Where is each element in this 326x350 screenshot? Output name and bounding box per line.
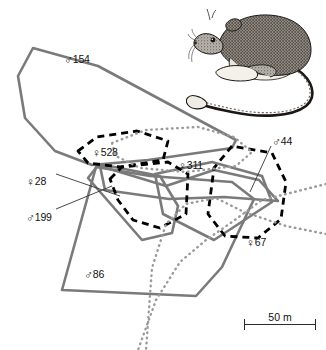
male-symbol-icon: ♂	[272, 135, 281, 149]
range-label-311: ♀311	[178, 160, 203, 172]
range-label-311-text: 311	[187, 159, 203, 171]
rodent-illustration	[186, 4, 326, 122]
range-label-154: ♂154	[64, 54, 90, 66]
range-label-86-text: 86	[93, 268, 104, 280]
female-symbol-icon: ♀	[26, 175, 35, 189]
male-symbol-icon: ♂	[64, 53, 73, 67]
range-label-44-text: 44	[281, 135, 292, 147]
scale-bar-label: 50 m	[244, 311, 316, 323]
range-label-199-text: 199	[35, 211, 52, 223]
range-label-154-text: 154	[73, 53, 90, 65]
range-label-86: ♂86	[84, 269, 104, 281]
scale-bar: 50 m	[244, 312, 316, 332]
range-label-67-text: 67	[255, 236, 266, 248]
range-label-28-text: 28	[35, 175, 46, 187]
female-symbol-icon: ♀	[246, 236, 255, 250]
female-symbol-icon: ♀	[92, 146, 101, 160]
female-symbol-icon: ♀	[178, 159, 187, 173]
male-symbol-icon: ♂	[26, 211, 35, 225]
range-label-528: ♀528	[92, 147, 118, 159]
range-label-199: ♂199	[26, 212, 52, 224]
range-label-528-text: 528	[101, 146, 118, 158]
scale-bar-line	[244, 324, 316, 325]
range-label-44: ♂44	[272, 136, 292, 148]
range-label-67: ♀67	[246, 237, 266, 249]
male-symbol-icon: ♂	[84, 268, 93, 282]
range-label-28: ♀28	[26, 176, 46, 188]
